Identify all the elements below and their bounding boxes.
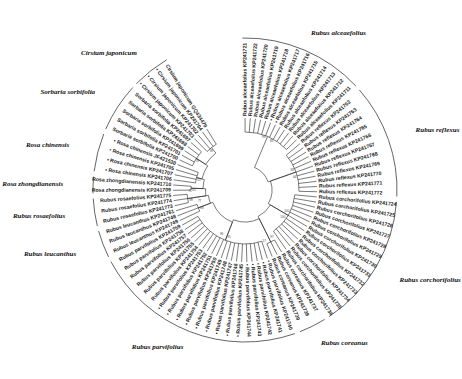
bootstrap-value: 99	[210, 149, 214, 153]
tip-branch	[180, 160, 193, 166]
tip-branch	[273, 127, 280, 139]
tip-branch	[276, 229, 290, 246]
tree-svg: Rubus alceaefolius KP241721Rubus alceaef…	[0, 0, 462, 379]
tip-branch	[266, 123, 271, 136]
tip-branch	[182, 216, 198, 225]
tip-branch	[242, 244, 243, 262]
tip-branch	[198, 135, 210, 149]
bootstrap-value: 88	[200, 206, 204, 210]
tip-branch	[195, 229, 208, 242]
tip-branch	[185, 220, 200, 230]
tip-branch	[290, 212, 310, 222]
clade-label: Rubus coreanus	[320, 339, 368, 347]
tip-branch	[284, 221, 301, 235]
clade-bracket-arc	[93, 199, 97, 226]
bootstrap-value: 99	[262, 135, 266, 139]
tip-branch	[173, 185, 191, 186]
backbone-arc	[208, 195, 210, 203]
tip-branch	[203, 234, 214, 249]
tip-branch	[199, 231, 211, 245]
tip-branch	[253, 119, 255, 133]
tip-branch	[254, 243, 257, 261]
tip-branch	[271, 242, 277, 255]
bootstrap-value: 64	[293, 175, 297, 179]
tip-branch	[191, 226, 204, 238]
bootstrap-value: 95	[227, 235, 231, 239]
backbone-arc	[202, 166, 208, 179]
clade-bracket-arc	[99, 231, 109, 257]
tip-branch	[291, 209, 311, 217]
tip-branch	[236, 244, 238, 262]
tip-branch	[267, 244, 272, 257]
tip-branch	[175, 203, 189, 206]
tip-branch	[182, 155, 194, 162]
tip-branch	[293, 157, 309, 165]
clade-label: Rosa chinensis	[25, 141, 70, 149]
clade-label: Rubus alceaefolius	[310, 29, 366, 37]
tip-branch	[273, 231, 286, 249]
clade-label: Rubus reflexus	[415, 126, 460, 134]
tip-branch	[295, 195, 317, 197]
tip-branch	[293, 205, 314, 212]
clade-label: Rubus corchorifolius	[399, 276, 462, 284]
backbone-branch	[268, 172, 296, 182]
clade-label: Sorbaria sorbifolia	[40, 88, 95, 96]
tip-branch	[297, 171, 314, 176]
backbone-arc	[258, 205, 270, 216]
bootstrap-value: 85	[270, 139, 274, 143]
clade-node-arc	[198, 216, 262, 244]
backbone-arc	[213, 202, 233, 222]
backbone-arc	[206, 153, 216, 164]
tip-branch	[195, 139, 208, 152]
tip-branch	[231, 243, 234, 261]
tip-branch	[250, 244, 252, 262]
tip-branch	[258, 120, 261, 134]
tip-labels: Rubus alceaefolius KP241721Rubus alceaef…	[92, 43, 397, 338]
tip-branch	[249, 118, 250, 132]
tip-label: Rosa zhongdianensis KP241709	[92, 187, 171, 193]
bootstrap-value: 99	[220, 232, 224, 236]
bootstrap-value: 100	[284, 209, 289, 213]
tip-branch	[258, 242, 262, 259]
bootstrap-value: 77	[198, 199, 202, 203]
bootstrap-value: 51	[197, 178, 201, 182]
tip-branch	[288, 215, 307, 226]
clade-label: Rubus leucanthus	[23, 250, 77, 258]
clade-label: Rubus rosaefolius	[12, 212, 66, 220]
backbone-branch	[255, 137, 268, 168]
tip-branch	[269, 125, 275, 138]
tip-branch	[299, 187, 317, 188]
tip-branch	[175, 175, 196, 180]
clade-label: Rosa zhongdianensis	[1, 180, 63, 188]
tip-branch	[226, 242, 231, 259]
tip-branch	[298, 176, 316, 179]
tip-branch	[294, 202, 315, 207]
tip-label: • Rubus parvifolius KP241744	[245, 264, 253, 337]
tip-branch	[294, 198, 316, 202]
tip-branch	[188, 223, 202, 234]
bootstrap-value: 97	[270, 235, 274, 239]
tip-branch	[262, 241, 268, 258]
phylogenetic-tree-figure: Rubus alceaefolius KP241721Rubus alceaef…	[0, 0, 462, 379]
backbone-arc	[233, 219, 259, 222]
tip-branch	[207, 129, 217, 144]
tip-branch	[207, 236, 216, 251]
clade-label: Cirsium japonicum	[81, 49, 137, 57]
tip-branch	[262, 121, 266, 134]
tip-branch	[174, 199, 188, 201]
backbone-arc	[203, 180, 204, 189]
bootstrap-value: 98	[290, 168, 294, 172]
bootstrap-value: 99	[189, 198, 193, 202]
tip-branch	[286, 218, 304, 230]
tip-branch	[286, 144, 300, 156]
backbone-arc	[255, 167, 269, 181]
bootstrap-value: 100	[280, 215, 285, 219]
tip-branch	[212, 238, 220, 254]
bootstrap-value: 65	[192, 188, 196, 192]
bootstrap-value: 71	[188, 189, 192, 193]
tip-branch	[174, 180, 196, 183]
clade-bracket-arc	[300, 319, 325, 331]
clade-label: Rubus parvifolius	[131, 343, 184, 351]
backbone-arc	[268, 181, 272, 204]
bootstrap-value: 57	[262, 239, 266, 243]
